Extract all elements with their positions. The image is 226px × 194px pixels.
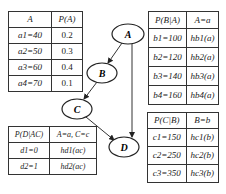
header-a: A xyxy=(9,12,52,28)
table-row: d2=1hd2(ac) xyxy=(9,159,97,175)
table-row: d1=0hd1(ac) xyxy=(9,143,97,159)
svg-text:B: B xyxy=(98,68,106,79)
table-header-row: P(D|AC) A=a, C=c xyxy=(9,127,97,143)
svg-text:D: D xyxy=(119,142,127,153)
table-row: c3=350hc3(b) xyxy=(148,165,219,183)
table-row: b3=140hb3(a) xyxy=(149,67,219,86)
table-row: b4=160hb4(a) xyxy=(149,86,219,105)
table-row: a2=500.3 xyxy=(9,44,83,60)
table-header-row: P(C|B) B=b xyxy=(148,113,219,129)
table-row: a1=400.2 xyxy=(9,28,83,44)
table-p-b-given-a: P(B|A) A=a b1=100hb1(a) b2=120hb2(a) b3=… xyxy=(148,11,219,105)
table-row: b1=100hb1(a) xyxy=(149,29,219,48)
node-a: A xyxy=(112,24,144,44)
node-d: D xyxy=(109,137,139,157)
header-p-a: P(A) xyxy=(52,12,83,28)
node-c: C xyxy=(62,99,92,119)
edge-b-c xyxy=(84,82,97,99)
svg-text:A: A xyxy=(124,29,132,40)
node-b: B xyxy=(87,63,117,83)
table-header-row: A P(A) xyxy=(9,12,83,28)
table-header-row: P(B|A) A=a xyxy=(149,12,219,29)
table-row: c1=150hc1(b) xyxy=(148,129,219,147)
table-row: b2=120hb2(a) xyxy=(149,48,219,67)
table-p-d-given-ac: P(D|AC) A=a, C=c d1=0hd1(ac) d2=1hd2(ac) xyxy=(8,126,97,175)
table-p-c-given-b: P(C|B) B=b c1=150hc1(b) c2=250hc2(b) c3=… xyxy=(147,112,219,183)
svg-text:C: C xyxy=(74,104,81,115)
table-row: c2=250hc2(b) xyxy=(148,147,219,165)
table-p-a: A P(A) a1=400.2 a2=500.3 a3=600.4 a4=700… xyxy=(8,11,83,92)
table-row: a4=700.1 xyxy=(9,76,83,92)
edge-a-b xyxy=(108,43,122,63)
table-row: a3=600.4 xyxy=(9,60,83,76)
